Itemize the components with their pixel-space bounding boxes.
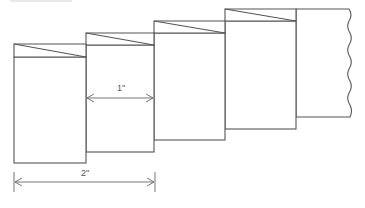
panel-4	[225, 9, 296, 129]
panel-tail	[296, 9, 352, 117]
panel-3	[154, 21, 225, 140]
dimension-label-2-inch: 2"	[81, 169, 89, 178]
panel-1	[14, 44, 86, 163]
dimension-label-1-inch: 1"	[117, 84, 125, 93]
accordion-fold-diagram	[0, 0, 365, 208]
